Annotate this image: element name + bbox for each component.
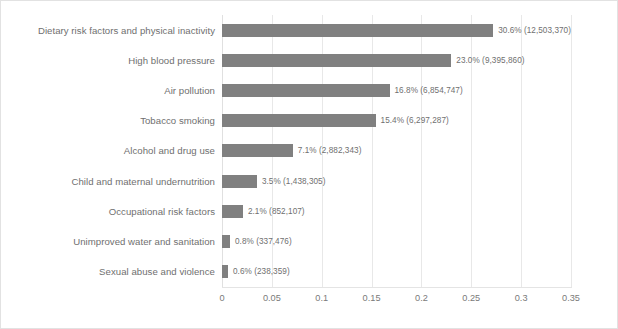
category-label: High blood pressure [128, 55, 215, 66]
bar [222, 205, 243, 218]
bar [222, 114, 376, 127]
bar [222, 144, 293, 157]
category-label: Sexual abuse and violence [99, 266, 215, 277]
x-axis-baseline [222, 287, 572, 288]
bar-row: Occupational risk factors2.1% (852,107) [222, 196, 571, 226]
category-label: Alcohol and drug use [124, 145, 215, 156]
bar-value-label: 16.8% (6,854,747) [395, 86, 463, 95]
x-tick-label: 0.35 [562, 293, 580, 303]
x-tick-label: 0.15 [363, 293, 381, 303]
bar [222, 84, 390, 97]
category-label: Dietary risk factors and physical inacti… [38, 25, 215, 36]
category-label: Occupational risk factors [109, 206, 215, 217]
x-tick-label: 0 [219, 293, 224, 303]
bar-row: Child and maternal undernutrition3.5% (1… [222, 166, 571, 196]
category-label: Unimproved water and sanitation [73, 236, 215, 247]
bar-row: Dietary risk factors and physical inacti… [222, 15, 571, 45]
bar [222, 235, 230, 248]
bar-value-label: 2.1% (852,107) [248, 207, 305, 216]
category-label: Air pollution [164, 85, 215, 96]
bar-row: Tobacco smoking15.4% (6,297,287) [222, 106, 571, 136]
bar-value-label: 0.8% (337,476) [235, 237, 292, 246]
plot-area: Dietary risk factors and physical inacti… [222, 15, 571, 287]
bar-value-label: 23.0% (9,395,860) [456, 56, 524, 65]
x-tick-label: 0.25 [462, 293, 480, 303]
bar [222, 54, 451, 67]
bar [222, 24, 493, 37]
bar-row: High blood pressure23.0% (9,395,860) [222, 45, 571, 75]
bar-row: Alcohol and drug use7.1% (2,882,343) [222, 136, 571, 166]
bar [222, 265, 228, 278]
bar-value-label: 30.6% (12,503,370) [498, 26, 571, 35]
gridline-0.35 [571, 15, 572, 287]
bar-row: Unimproved water and sanitation0.8% (337… [222, 226, 571, 256]
bar-value-label: 3.5% (1,438,305) [262, 177, 326, 186]
x-axis-ticks: 00.050.10.150.20.250.30.35 [222, 293, 572, 313]
bar-chart: Dietary risk factors and physical inacti… [0, 0, 618, 329]
bar [222, 175, 257, 188]
bar-value-label: 7.1% (2,882,343) [298, 146, 362, 155]
x-tick-label: 0.1 [315, 293, 328, 303]
bar-rows: Dietary risk factors and physical inacti… [222, 15, 571, 287]
x-tick-label: 0.2 [415, 293, 428, 303]
category-label: Child and maternal undernutrition [71, 176, 215, 187]
category-label: Tobacco smoking [140, 115, 215, 126]
bar-row: Sexual abuse and violence0.6% (238,359) [222, 257, 571, 287]
bar-row: Air pollution16.8% (6,854,747) [222, 75, 571, 105]
x-tick-label: 0.05 [263, 293, 281, 303]
x-tick-label: 0.3 [515, 293, 528, 303]
bar-value-label: 0.6% (238,359) [233, 267, 290, 276]
bar-value-label: 15.4% (6,297,287) [381, 116, 449, 125]
